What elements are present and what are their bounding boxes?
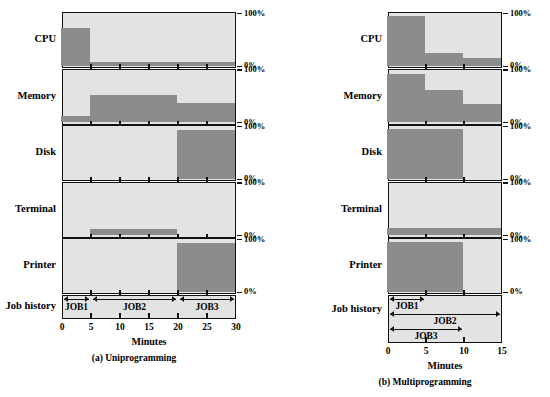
bar-memory	[425, 90, 463, 123]
job-label-job3: JOB3	[185, 302, 229, 312]
y-tickmark-0	[237, 122, 242, 123]
y-ticklabel-100: 100%	[510, 234, 531, 244]
panel-memory	[62, 69, 236, 125]
bar-terminal	[90, 229, 177, 235]
row-label-disk: Disk	[320, 146, 382, 157]
y-tickmark-0	[237, 179, 242, 180]
bar-memory	[177, 103, 235, 122]
row-label-printer: Printer	[320, 259, 382, 270]
x-ticklabel: 10	[450, 346, 478, 356]
job-x-tickmark	[119, 313, 120, 319]
y-ticklabel-100: 100%	[244, 177, 265, 187]
y-ticklabel-100: 100%	[510, 177, 531, 187]
figure-root: 100%0%CPU100%0%Memory100%0%Disk100%0%Ter…	[0, 0, 550, 397]
y-tickmark-100	[503, 182, 508, 183]
y-ticklabel-0: 0%	[244, 286, 257, 296]
y-tickmark-100	[237, 69, 242, 70]
bar-disk	[387, 129, 463, 179]
row-label-disk: Disk	[0, 146, 56, 157]
panel-cpu	[62, 12, 236, 68]
row-label-cpu: CPU	[320, 33, 382, 44]
bar-cpu	[90, 62, 235, 66]
chart-caption: (b) Multiprogramming	[348, 377, 502, 387]
x-ticklabel: 30	[222, 322, 250, 332]
panel-disk	[62, 125, 236, 181]
y-ticklabel-100: 100%	[510, 64, 531, 74]
x-ticklabel: 5	[77, 322, 105, 332]
bar-cpu	[61, 28, 90, 66]
panel-printer	[388, 238, 502, 294]
row-label-memory: Memory	[320, 90, 382, 101]
job-label-job1: JOB1	[55, 302, 99, 312]
y-tickmark-0	[503, 122, 508, 123]
job-arrow-job3	[180, 299, 234, 300]
row-label-cpu: CPU	[0, 33, 56, 44]
bar-memory	[90, 95, 177, 122]
y-tickmark-100	[503, 126, 508, 127]
y-tickmark-100	[237, 182, 242, 183]
job-x-tickmark	[463, 337, 464, 343]
x-ticklabel: 0	[374, 346, 402, 356]
y-ticklabel-100: 100%	[244, 64, 265, 74]
panel-cpu	[388, 12, 502, 68]
y-tickmark-100	[503, 69, 508, 70]
panel-memory	[388, 69, 502, 125]
job-label-job1: JOB1	[385, 301, 429, 311]
y-ticklabel-100: 100%	[244, 8, 265, 18]
y-ticklabel-100: 100%	[244, 121, 265, 131]
chart-multiprogramming: 100%0%CPU100%0%Memory100%0%Disk100%0%Ter…	[320, 0, 550, 397]
job-label-job2: JOB2	[423, 316, 467, 326]
job-x-tickmark	[148, 313, 149, 319]
job-arrow-job2	[93, 299, 176, 300]
x-ticklabel: 0	[48, 322, 76, 332]
y-ticklabel-100: 100%	[244, 234, 265, 244]
y-tickmark-100	[503, 13, 508, 14]
y-ticklabel-100: 100%	[510, 121, 531, 131]
x-ticklabel: 20	[164, 322, 192, 332]
job-x-tickmark	[177, 313, 178, 319]
bar-printer	[387, 242, 463, 292]
job-history-label: Job history	[0, 300, 56, 311]
row-label-memory: Memory	[0, 90, 56, 101]
row-label-terminal: Terminal	[320, 203, 382, 214]
job-history-label: Job history	[320, 303, 382, 314]
job-arrow-job1	[64, 299, 89, 300]
job-x-tickmark	[425, 337, 426, 343]
bar-memory	[463, 104, 501, 122]
bar-cpu	[425, 53, 463, 66]
y-tickmark-0	[503, 235, 508, 236]
y-tickmark-0	[237, 292, 242, 293]
y-ticklabel-0: 0%	[510, 286, 523, 296]
chart-uniprogramming: 100%0%CPU100%0%Memory100%0%Disk100%0%Ter…	[0, 0, 320, 397]
chart-caption: (a) Uniprogramming	[32, 353, 236, 363]
bar-memory	[61, 116, 90, 122]
x-axis-title: Minutes	[388, 360, 502, 371]
bar-memory	[387, 74, 425, 123]
y-tickmark-100	[237, 13, 242, 14]
bar-terminal	[387, 228, 501, 235]
y-tickmark-0	[237, 235, 242, 236]
bar-cpu	[463, 58, 501, 65]
bar-cpu	[387, 16, 425, 66]
x-ticklabel: 25	[193, 322, 221, 332]
y-tickmark-100	[503, 239, 508, 240]
y-tickmark-0	[237, 66, 242, 67]
panel-disk	[388, 125, 502, 181]
row-label-printer: Printer	[0, 259, 56, 270]
y-tickmark-0	[503, 66, 508, 67]
x-ticklabel: 10	[106, 322, 134, 332]
y-tickmark-0	[503, 292, 508, 293]
row-label-terminal: Terminal	[0, 203, 56, 214]
bar-disk	[177, 130, 235, 179]
panel-terminal	[388, 182, 502, 238]
x-ticklabel: 5	[412, 346, 440, 356]
panel-printer	[62, 238, 236, 294]
panel-terminal	[62, 182, 236, 238]
y-tickmark-0	[503, 179, 508, 180]
y-ticklabel-100: 100%	[510, 8, 531, 18]
x-ticklabel: 15	[135, 322, 163, 332]
job-x-tickmark	[90, 313, 91, 319]
y-tickmark-100	[237, 239, 242, 240]
job-x-tickmark	[206, 313, 207, 319]
job-label-job2: JOB2	[113, 302, 157, 312]
